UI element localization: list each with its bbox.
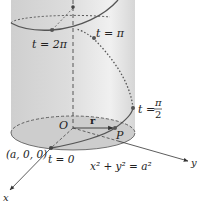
helix-cylinder-diagram: t = 2π t = π t = π 2 O r P (a, 0, 0) t =… [0,0,199,203]
label-t-2pi: t = 2π [32,38,68,51]
label-t-pi2-num: π [154,97,162,108]
point-t0 [49,146,53,150]
label-point-p: P [115,129,124,142]
label-vector-r: r [90,115,96,126]
point-t-2pi [50,28,54,32]
label-axis-y: y [190,157,197,168]
label-t-pi: t = π [96,27,125,40]
label-origin: O [59,119,68,132]
label-axis-x: x [3,192,9,203]
point-t-pi2 [131,106,135,110]
label-t-pi2-den: 2 [155,109,161,120]
label-t0: t = 0 [48,153,75,165]
label-t-pi2-prefix: t = [138,103,155,116]
point-top-axis [71,5,75,9]
label-a00: (a, 0, 0) [6,148,47,160]
label-equation: x² + y² = a² [90,160,152,172]
y-axis [118,141,188,161]
